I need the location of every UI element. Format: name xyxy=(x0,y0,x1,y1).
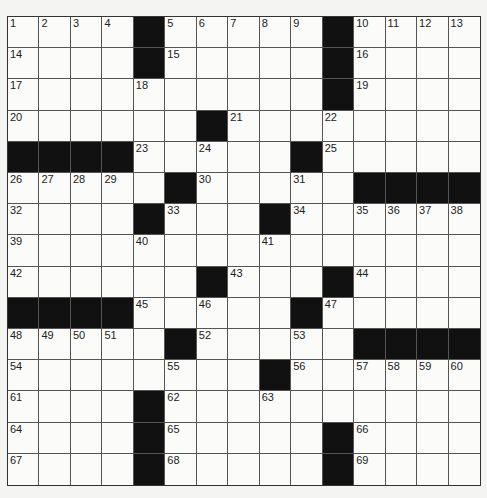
grid-cell[interactable] xyxy=(39,423,70,454)
grid-cell[interactable] xyxy=(197,423,228,454)
grid-cell[interactable] xyxy=(449,454,480,485)
grid-cell[interactable] xyxy=(102,267,133,298)
grid-cell[interactable] xyxy=(134,267,165,298)
grid-cell[interactable]: 49 xyxy=(39,329,70,360)
grid-cell[interactable] xyxy=(291,391,322,422)
grid-cell[interactable] xyxy=(449,391,480,422)
grid-cell[interactable] xyxy=(165,267,196,298)
grid-cell[interactable] xyxy=(323,360,354,391)
grid-cell[interactable] xyxy=(165,142,196,173)
grid-cell[interactable] xyxy=(228,48,259,79)
grid-cell[interactable] xyxy=(291,111,322,142)
grid-cell[interactable] xyxy=(134,173,165,204)
grid-cell[interactable] xyxy=(197,204,228,235)
grid-cell[interactable]: 23 xyxy=(134,142,165,173)
grid-cell[interactable]: 55 xyxy=(165,360,196,391)
grid-cell[interactable] xyxy=(165,235,196,266)
grid-cell[interactable] xyxy=(228,423,259,454)
grid-cell[interactable]: 2 xyxy=(39,17,70,48)
grid-cell[interactable] xyxy=(417,235,448,266)
grid-cell[interactable]: 18 xyxy=(134,79,165,110)
grid-cell[interactable]: 11 xyxy=(386,17,417,48)
grid-cell[interactable]: 40 xyxy=(134,235,165,266)
grid-cell[interactable] xyxy=(323,173,354,204)
grid-cell[interactable] xyxy=(71,267,102,298)
grid-cell[interactable] xyxy=(197,454,228,485)
grid-cell[interactable] xyxy=(71,235,102,266)
grid-cell[interactable] xyxy=(417,391,448,422)
grid-cell[interactable] xyxy=(39,235,70,266)
grid-cell[interactable]: 28 xyxy=(71,173,102,204)
grid-cell[interactable] xyxy=(417,48,448,79)
grid-cell[interactable] xyxy=(386,79,417,110)
grid-cell[interactable]: 3 xyxy=(71,17,102,48)
grid-cell[interactable] xyxy=(449,235,480,266)
grid-cell[interactable] xyxy=(228,298,259,329)
grid-cell[interactable]: 4 xyxy=(102,17,133,48)
grid-cell[interactable] xyxy=(386,423,417,454)
grid-cell[interactable] xyxy=(228,391,259,422)
grid-cell[interactable]: 66 xyxy=(354,423,385,454)
grid-cell[interactable] xyxy=(71,48,102,79)
grid-cell[interactable]: 61 xyxy=(8,391,39,422)
grid-cell[interactable]: 30 xyxy=(197,173,228,204)
grid-cell[interactable] xyxy=(39,360,70,391)
grid-cell[interactable]: 21 xyxy=(228,111,259,142)
grid-cell[interactable]: 17 xyxy=(8,79,39,110)
grid-cell[interactable] xyxy=(354,142,385,173)
grid-cell[interactable] xyxy=(417,267,448,298)
grid-cell[interactable]: 67 xyxy=(8,454,39,485)
grid-cell[interactable] xyxy=(260,173,291,204)
grid-cell[interactable] xyxy=(354,111,385,142)
grid-cell[interactable]: 20 xyxy=(8,111,39,142)
grid-cell[interactable] xyxy=(165,298,196,329)
grid-cell[interactable]: 35 xyxy=(354,204,385,235)
grid-cell[interactable] xyxy=(39,48,70,79)
grid-cell[interactable] xyxy=(39,454,70,485)
grid-cell[interactable]: 52 xyxy=(197,329,228,360)
grid-cell[interactable] xyxy=(71,423,102,454)
grid-cell[interactable]: 7 xyxy=(228,17,259,48)
grid-cell[interactable]: 6 xyxy=(197,17,228,48)
grid-cell[interactable] xyxy=(260,48,291,79)
grid-cell[interactable]: 64 xyxy=(8,423,39,454)
grid-cell[interactable]: 27 xyxy=(39,173,70,204)
grid-cell[interactable] xyxy=(102,79,133,110)
grid-cell[interactable] xyxy=(228,173,259,204)
grid-cell[interactable] xyxy=(260,454,291,485)
grid-cell[interactable]: 59 xyxy=(417,360,448,391)
grid-cell[interactable] xyxy=(449,298,480,329)
grid-cell[interactable] xyxy=(417,298,448,329)
grid-cell[interactable] xyxy=(260,329,291,360)
grid-cell[interactable] xyxy=(71,454,102,485)
grid-cell[interactable]: 1 xyxy=(8,17,39,48)
grid-cell[interactable]: 50 xyxy=(71,329,102,360)
grid-cell[interactable]: 38 xyxy=(449,204,480,235)
grid-cell[interactable]: 22 xyxy=(323,111,354,142)
grid-cell[interactable] xyxy=(386,111,417,142)
grid-cell[interactable]: 65 xyxy=(165,423,196,454)
grid-cell[interactable]: 9 xyxy=(291,17,322,48)
grid-cell[interactable] xyxy=(71,111,102,142)
grid-cell[interactable] xyxy=(291,267,322,298)
grid-cell[interactable] xyxy=(260,298,291,329)
grid-cell[interactable] xyxy=(102,111,133,142)
grid-cell[interactable] xyxy=(134,111,165,142)
grid-cell[interactable] xyxy=(228,204,259,235)
grid-cell[interactable] xyxy=(323,235,354,266)
grid-cell[interactable]: 60 xyxy=(449,360,480,391)
grid-cell[interactable] xyxy=(291,454,322,485)
grid-cell[interactable] xyxy=(291,79,322,110)
grid-cell[interactable] xyxy=(134,329,165,360)
grid-cell[interactable]: 51 xyxy=(102,329,133,360)
grid-cell[interactable]: 13 xyxy=(449,17,480,48)
grid-cell[interactable] xyxy=(197,235,228,266)
grid-cell[interactable] xyxy=(354,235,385,266)
grid-cell[interactable] xyxy=(39,204,70,235)
grid-cell[interactable] xyxy=(197,79,228,110)
grid-cell[interactable]: 69 xyxy=(354,454,385,485)
grid-cell[interactable] xyxy=(71,204,102,235)
grid-cell[interactable]: 39 xyxy=(8,235,39,266)
grid-cell[interactable] xyxy=(39,111,70,142)
grid-cell[interactable] xyxy=(71,360,102,391)
